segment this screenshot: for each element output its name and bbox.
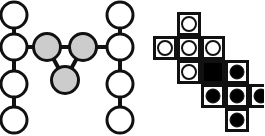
cell-c2-r3-filled-circle-icon: [206, 89, 220, 103]
cell-c0-r1: [155, 38, 176, 59]
left-column-node-4: [1, 107, 27, 133]
cell-c2-r2-solid-box: [203, 62, 224, 83]
cell-c3-r2: [227, 62, 248, 83]
cell-c3-r4-filled-circle-icon: [230, 113, 244, 127]
cell-c2-r3: [203, 86, 224, 107]
left-column-node-2: [1, 34, 27, 60]
center-gray-node-left: [34, 34, 61, 61]
cell-c1-r2: [179, 62, 200, 83]
node-link-graph-svg: [0, 0, 140, 136]
cell-c3-r3-filled-circle-icon: [230, 89, 244, 103]
left-column-node-3: [1, 71, 27, 97]
graph-node-group: [1, 2, 133, 133]
center-gray-node-bottom: [52, 67, 79, 94]
cell-c3-r3: [227, 86, 248, 107]
cell-grid-svg: [140, 0, 264, 136]
cell-c2-r1: [203, 38, 224, 59]
cell-c3-r2-filled-circle-icon: [230, 65, 244, 79]
figure-root: [0, 0, 264, 136]
right-column-node-1: [107, 2, 133, 28]
node-link-graph-panel: [0, 0, 140, 136]
cell-c3-r4: [227, 110, 248, 131]
left-column-node-1: [1, 2, 27, 28]
cell-grid-panel: [140, 0, 264, 136]
grid-cell-group: [155, 14, 265, 131]
center-gray-node-right: [70, 34, 97, 61]
cell-c1-r0: [179, 14, 200, 35]
right-column-node-3: [107, 71, 133, 97]
cell-c2-r2-solid: [203, 62, 224, 83]
cell-c4-r3-filled-circle-icon: [254, 89, 264, 103]
right-column-node-2: [107, 34, 133, 60]
cell-c1-r1: [179, 38, 200, 59]
right-column-node-4: [107, 107, 133, 133]
cell-c4-r3: [251, 86, 265, 107]
